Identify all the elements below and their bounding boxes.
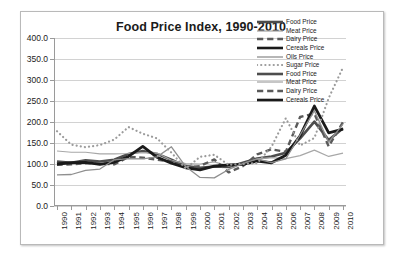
- x-axis-tick-label: 1999: [189, 212, 198, 230]
- x-axis-tick: [257, 206, 258, 210]
- x-axis-tick-label: 2005: [275, 212, 284, 230]
- x-axis-tick: [243, 206, 244, 210]
- x-axis-tick: [343, 206, 344, 210]
- x-axis-tick-label: 1996: [146, 212, 155, 230]
- x-axis-tick-label: 2007: [303, 212, 312, 230]
- y-axis-tick-label: 400.0: [27, 33, 48, 43]
- legend-line-icon: [257, 27, 283, 35]
- x-axis-tick: [157, 206, 158, 210]
- x-axis-tick-label: 2010: [346, 212, 355, 230]
- x-axis-tick-label: 2004: [260, 212, 269, 230]
- x-axis-tick-label: 1991: [74, 212, 83, 230]
- x-axis-tick: [86, 206, 87, 210]
- legend-item[interactable]: Cereals Price: [257, 44, 357, 53]
- y-axis-tick-label: 200.0: [27, 117, 48, 127]
- x-axis-tick: [186, 206, 187, 210]
- legend-label: Oils Price: [286, 53, 313, 61]
- x-axis-tick: [229, 206, 230, 210]
- x-axis-tick: [300, 206, 301, 210]
- y-axis-tick-label: 50.0: [31, 180, 48, 190]
- legend-line-icon: [257, 53, 283, 61]
- legend-label: Cereals Price: [286, 44, 324, 52]
- x-axis-tick: [286, 206, 287, 210]
- legend-item[interactable]: Oils Price: [257, 52, 357, 61]
- x-axis-tick: [272, 206, 273, 210]
- y-axis-tick: [50, 206, 54, 207]
- legend-line-icon: [257, 18, 283, 26]
- y-axis-tick-label: 300.0: [27, 75, 48, 85]
- x-axis-tick-label: 2003: [246, 212, 255, 230]
- x-axis-tick-label: 2006: [289, 212, 298, 230]
- x-axis-tick: [129, 206, 130, 210]
- legend-label: Food Price: [286, 70, 317, 78]
- x-axis-tick-label: 1990: [60, 212, 69, 230]
- x-axis-tick: [114, 206, 115, 210]
- legend-label: Meat Price: [286, 78, 317, 86]
- x-axis-tick-label: 1997: [160, 212, 169, 230]
- legend-line-icon: [257, 61, 283, 69]
- legend-item[interactable]: Dairy Price: [257, 87, 357, 96]
- x-axis-tick-label: 2000: [203, 212, 212, 230]
- legend-label: Sugar Price: [286, 61, 319, 69]
- x-axis-tick-label: 2009: [332, 212, 341, 230]
- x-axis-tick-label: 2001: [217, 212, 226, 230]
- legend-item[interactable]: Cereals Price: [257, 95, 357, 104]
- chart-legend: Food PriceMeat PriceDairy PriceCereals P…: [255, 16, 359, 106]
- x-axis-tick: [214, 206, 215, 210]
- x-axis-tick-label: 2002: [232, 212, 241, 230]
- x-axis-tick: [171, 206, 172, 210]
- legend-label: Dairy Price: [286, 87, 317, 95]
- y-axis-tick-label: 0.0: [36, 201, 48, 211]
- x-axis-tick: [71, 206, 72, 210]
- legend-item[interactable]: Sugar Price: [257, 61, 357, 70]
- y-axis-tick-label: 150.0: [27, 138, 48, 148]
- x-axis-tick: [143, 206, 144, 210]
- legend-line-icon: [257, 70, 283, 78]
- legend-label: Dairy Price: [286, 35, 317, 43]
- legend-line-icon: [257, 78, 283, 86]
- legend-label: Food Price: [286, 18, 317, 26]
- x-axis-tick-label: 1993: [103, 212, 112, 230]
- legend-item[interactable]: Meat Price: [257, 78, 357, 87]
- x-axis-tick: [329, 206, 330, 210]
- series-line: [57, 122, 343, 168]
- legend-label: Cereals Price: [286, 96, 324, 104]
- legend-item[interactable]: Food Price: [257, 18, 357, 27]
- x-axis-tick-label: 1994: [117, 212, 126, 230]
- legend-line-icon: [257, 35, 283, 43]
- legend-item[interactable]: Meat Price: [257, 27, 357, 36]
- x-axis-tick: [57, 206, 58, 210]
- x-axis-tick-label: 1995: [132, 212, 141, 230]
- x-axis-tick-label: 1998: [174, 212, 183, 230]
- x-axis-tick-label: 1992: [89, 212, 98, 230]
- x-axis-tick: [200, 206, 201, 210]
- legend-item[interactable]: Food Price: [257, 70, 357, 79]
- x-axis-tick: [314, 206, 315, 210]
- x-axis-tick: [100, 206, 101, 210]
- x-axis-tick-label: 2008: [317, 212, 326, 230]
- chart-container: Food Price Index, 1990-2010 0.050.0100.0…: [20, 11, 384, 245]
- y-axis-tick-label: 100.0: [27, 159, 48, 169]
- legend-item[interactable]: Dairy Price: [257, 35, 357, 44]
- legend-label: Meat Price: [286, 27, 317, 35]
- y-axis-tick-label: 350.0: [27, 54, 48, 64]
- legend-line-icon: [257, 96, 283, 104]
- legend-line-icon: [257, 44, 283, 52]
- y-axis-tick-label: 250.0: [27, 96, 48, 106]
- legend-line-icon: [257, 87, 283, 95]
